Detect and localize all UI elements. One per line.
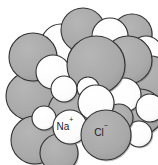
nacl-lattice-figure: Na+ Cl− (0, 0, 158, 165)
sphere-body (51, 76, 77, 102)
sphere-body (81, 110, 131, 160)
sphere-body (32, 106, 56, 130)
sphere-body (136, 94, 158, 122)
chloride-ion-sphere (81, 110, 132, 161)
nacl-lattice-diagram: Na+ Cl− (0, 0, 158, 165)
